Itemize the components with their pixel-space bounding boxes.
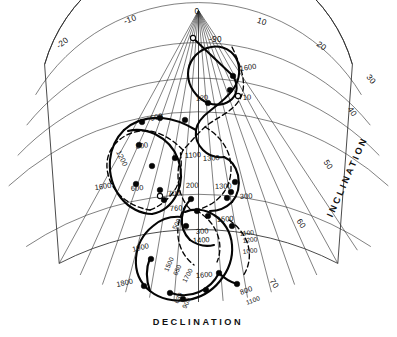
data-point: [188, 196, 194, 202]
declination-tick-0: 0: [195, 7, 200, 16]
date-label: 1200: [242, 235, 258, 244]
date-label: 1300: [215, 181, 232, 191]
date-label: 1000: [242, 246, 258, 255]
date-label: 300: [196, 226, 209, 236]
data-point: [157, 187, 163, 193]
date-label: 800: [135, 140, 149, 151]
date-label: 1600: [195, 270, 213, 280]
inclination-tick-40: 40: [346, 105, 359, 118]
data-point: [167, 290, 173, 296]
date-label: 10: [242, 92, 251, 102]
date-label: 700: [168, 188, 181, 198]
declination-axis-title: DECLINATION: [153, 317, 244, 327]
date-label: 1300: [203, 153, 220, 163]
inclination-pole-label: -90: [209, 35, 222, 44]
data-point: [182, 117, 188, 123]
inclination-tick-60: 60: [295, 217, 308, 230]
inclination-axis-title: INCLINATION: [325, 135, 370, 219]
inclination-tick-50: 50: [322, 158, 335, 171]
data-point: [203, 287, 209, 293]
data-point: [149, 163, 155, 169]
data-point: [172, 155, 178, 161]
data-point: [190, 35, 195, 40]
date-label: 1100: [185, 150, 202, 160]
data-point: [141, 283, 147, 289]
data-point: [224, 195, 230, 201]
declination-tick--10: -10: [123, 13, 138, 26]
declination-tick-30: 30: [364, 73, 377, 86]
data-point: [232, 179, 238, 185]
date-label: 1600: [94, 181, 112, 192]
data-point: [148, 256, 154, 262]
date-label: 1700: [181, 267, 194, 284]
date-label: 1900: [131, 241, 150, 254]
data-point: [216, 270, 222, 276]
data-point: [205, 213, 211, 219]
declination-tick-10: 10: [256, 16, 268, 28]
data-point: [227, 87, 233, 93]
date-label: 760: [170, 203, 183, 213]
date-label: 200: [186, 181, 199, 190]
declination-tick-20: 20: [315, 39, 328, 52]
polar-sector-chart: -20 -10 0 10 20 30 40 50 60 70 -90 DECLI…: [0, 0, 397, 337]
date-label: 650: [172, 263, 183, 276]
data-point: [183, 223, 189, 229]
data-point: [235, 93, 240, 98]
date-label: 800: [239, 284, 254, 297]
data-point: [229, 223, 235, 229]
data-point: [157, 193, 162, 198]
date-label: 1500: [217, 214, 234, 224]
date-label: 1200: [114, 149, 129, 168]
date-label: 500: [149, 111, 163, 123]
declination-tick--20: -20: [55, 35, 71, 50]
data-point: [139, 119, 145, 125]
date-label: 120: [195, 93, 209, 103]
date-label: 1400: [193, 235, 210, 245]
data-point: [230, 73, 236, 79]
data-point: [194, 208, 200, 214]
date-label: 300: [240, 191, 253, 201]
data-point: [234, 281, 240, 287]
date-label: 1800: [116, 277, 134, 289]
data-point: [161, 197, 167, 203]
figure-canvas: -20 -10 0 10 20 30 40 50 60 70 -90 DECLI…: [0, 0, 397, 337]
date-label: 600: [130, 183, 143, 193]
inclination-tick-70: 70: [268, 277, 281, 290]
date-label: 1600: [239, 62, 257, 73]
